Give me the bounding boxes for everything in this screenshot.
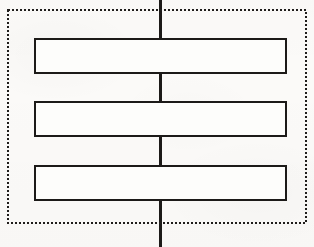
schematic-rectangle-3 xyxy=(35,166,286,200)
schematic-vector-layer xyxy=(0,0,314,247)
schematic-rectangle-2 xyxy=(35,102,286,136)
schematic-rectangle-1 xyxy=(35,39,286,73)
diagram-canvas xyxy=(0,0,314,247)
